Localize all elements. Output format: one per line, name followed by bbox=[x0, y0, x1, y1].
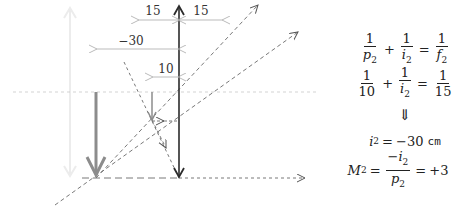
implies-arrow: ⇓ bbox=[350, 100, 460, 130]
image-arrow bbox=[87, 92, 105, 175]
magnification-result: M2 = −i2p2 = +3 bbox=[336, 152, 460, 188]
focal-right-label: 15 bbox=[193, 4, 208, 18]
lens-equation-substituted: 110 + 1i2 = 115 bbox=[350, 66, 460, 100]
image-distance-label: −30 bbox=[118, 34, 143, 48]
dimension-focal-right: 15 bbox=[180, 4, 222, 20]
ray-from-image-long bbox=[55, 32, 298, 205]
lens-equation-general: 1p2 + 1i2 = 1f2 bbox=[350, 32, 460, 66]
focal-left-label: 15 bbox=[145, 4, 160, 18]
dimension-focal-left: 15 bbox=[139, 4, 178, 20]
optics-ray-diagram: 15 15 −30 10 bbox=[0, 0, 320, 216]
object-distance-label: 10 bbox=[158, 62, 173, 76]
object-arrow bbox=[148, 92, 156, 120]
ray-through-focal bbox=[96, 5, 258, 178]
dimension-image-distance: −30 bbox=[97, 34, 178, 49]
dimension-object-distance: 10 bbox=[153, 62, 178, 77]
equations-panel: 1p2 + 1i2 = 1f2 110 + 1i2 = 115 ⇓ i2 = −… bbox=[350, 32, 460, 188]
lens bbox=[174, 6, 184, 177]
